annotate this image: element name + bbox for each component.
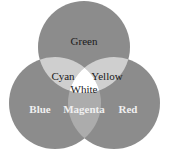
venn-diagram: Green Blue Red Cyan Yellow Magenta White [0,0,171,159]
label-red: Red [119,103,138,115]
label-magenta: Magenta [63,103,105,115]
label-yellow: Yellow [91,70,122,82]
label-white: White [71,83,98,95]
label-green: Green [71,35,98,47]
label-blue: Blue [29,103,51,115]
label-cyan: Cyan [51,70,75,82]
